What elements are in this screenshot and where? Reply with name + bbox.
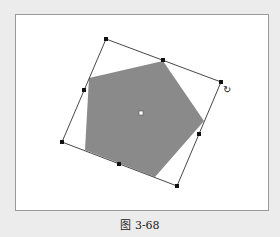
handle-bottom-right[interactable] bbox=[175, 184, 179, 188]
handle-top-left[interactable] bbox=[104, 37, 108, 41]
rotate-cursor-icon: ↻ bbox=[223, 84, 231, 95]
handle-top-middle[interactable] bbox=[161, 58, 165, 62]
handle-bottom-left[interactable] bbox=[60, 140, 64, 144]
pentagon-shape[interactable] bbox=[85, 61, 204, 177]
rotation-center-point[interactable] bbox=[139, 111, 143, 115]
handle-left-middle[interactable] bbox=[82, 88, 86, 92]
figure-caption: 图 3-68 bbox=[0, 216, 280, 232]
drawing-canvas[interactable]: ↻ bbox=[0, 0, 280, 237]
handle-bottom-middle[interactable] bbox=[117, 162, 121, 166]
handle-right-middle[interactable] bbox=[197, 132, 201, 136]
